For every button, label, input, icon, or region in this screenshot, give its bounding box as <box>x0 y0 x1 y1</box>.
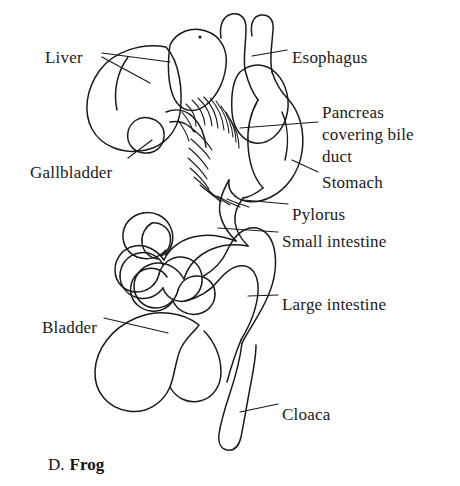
bile-duct <box>166 110 206 147</box>
esophagus-outline-2 <box>251 15 273 72</box>
label-pancreas-line2: covering bile <box>322 125 414 145</box>
label-pancreas-line1: Pancreas <box>322 103 384 123</box>
label-cloaca: Cloaca <box>282 405 330 425</box>
label-stomach: Stomach <box>322 173 383 193</box>
esophagus-lower-left <box>245 70 258 100</box>
label-small-intestine: Small intestine <box>282 232 387 252</box>
bladder-right-lobe <box>170 331 221 402</box>
label-esophagus: Esophagus <box>292 48 367 68</box>
label-pancreas-line3: duct <box>322 147 352 167</box>
esophagus-lower-right <box>272 72 288 99</box>
esophagus-outline <box>220 14 246 70</box>
leader-large-intestine <box>248 295 278 296</box>
caption-letter: D. <box>48 455 65 474</box>
figure-caption: D.Frog <box>48 455 104 475</box>
label-large-intestine: Large intestine <box>282 295 386 315</box>
cloaca-outline <box>219 343 256 450</box>
stomach-outer-curve <box>235 99 303 202</box>
stomach-crease <box>282 112 287 160</box>
frog-digestive-system-diagram: Liver Esophagus Pancreas covering bile d… <box>0 0 460 486</box>
caption-name: Frog <box>65 455 105 474</box>
stomach-lower-inner <box>243 188 263 198</box>
anatomy-drawing <box>0 0 460 486</box>
label-gallbladder: Gallbladder <box>30 163 112 183</box>
leader-esophagus <box>252 50 287 56</box>
stomach-pylorus-join <box>229 180 235 196</box>
stomach-inner-curve <box>248 100 263 188</box>
label-liver: Liver <box>45 48 83 68</box>
pylorus-outline <box>219 180 236 241</box>
liver-right-lobe <box>232 65 288 143</box>
leader-pancreas <box>240 122 318 128</box>
marker-dot <box>198 35 201 38</box>
leader-bladder <box>104 318 168 333</box>
small-intestine-coils <box>115 213 248 315</box>
label-pylorus: Pylorus <box>292 205 345 225</box>
label-bladder: Bladder <box>42 318 97 338</box>
gallbladder-outline <box>128 118 164 153</box>
